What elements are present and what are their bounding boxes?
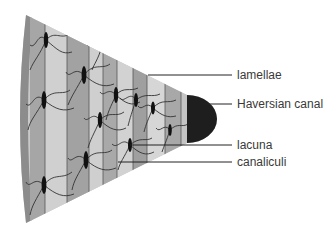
lacuna-shape: [44, 32, 48, 48]
label-lacuna: lacuna: [237, 138, 272, 152]
osteon-diagram: [0, 0, 336, 238]
label-canaliculi: canaliculi: [237, 155, 286, 169]
lacuna-shape: [82, 66, 87, 84]
lacuna-shape: [84, 151, 89, 169]
haversian-canal-shape: [187, 95, 217, 143]
lacuna-shape: [42, 91, 47, 109]
lacuna-shape: [151, 102, 155, 115]
lacuna-shape: [114, 87, 118, 103]
label-lamellae: lamellae: [237, 68, 282, 82]
lacuna-shape: [42, 176, 47, 194]
lacuna-shape: [168, 124, 172, 136]
lacuna-shape: [98, 112, 102, 128]
bone-wedge: [10, 0, 217, 238]
lacuna-shape: [134, 93, 138, 107]
label-haversian-canal: Haversian canal: [237, 97, 323, 111]
